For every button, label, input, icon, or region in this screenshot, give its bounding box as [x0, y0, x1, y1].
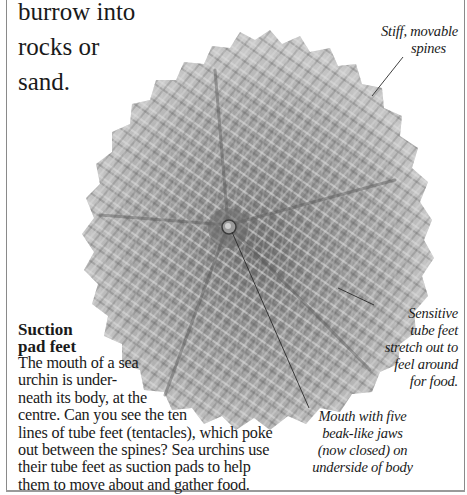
body-line: them to move about and gather food. — [18, 477, 278, 494]
caption-line: underside of body — [300, 459, 425, 476]
book-page: burrow into rocks or sand. Suction pad f… — [0, 0, 467, 495]
caption-line: beak-like jaws — [300, 425, 425, 442]
body-line: lines of tube feet (tentacles), which po… — [18, 425, 278, 442]
page-border-right — [464, 0, 465, 491]
body-line: The mouth of a sea — [18, 355, 278, 372]
caption-line: tube feet — [340, 322, 458, 339]
caption-line: stretch out to — [340, 339, 458, 356]
intro-line: rocks or — [18, 29, 148, 64]
caption-spines: Stiff, movable spines — [340, 23, 458, 57]
caption-line: (now closed) on — [300, 442, 425, 459]
page-border-left — [6, 0, 7, 491]
caption-line: feel around — [340, 356, 458, 373]
body-line: centre. Can you see the ten — [18, 407, 278, 424]
intro-text: burrow into rocks or sand. — [18, 0, 148, 99]
heading-line: pad feet — [18, 338, 138, 355]
intro-line: burrow into — [18, 0, 148, 29]
body-line: their tube feet as suction pads to help — [18, 459, 278, 476]
caption-tube-feet: Sensitive tube feet stretch out to feel … — [340, 305, 458, 390]
heading-line: Suction — [18, 321, 138, 338]
section-body: The mouth of a sea urchin is under- neat… — [18, 355, 278, 494]
caption-line: spines — [340, 40, 458, 57]
intro-line: sand. — [18, 64, 148, 99]
body-line: neath its body, at the — [18, 390, 278, 407]
caption-line: for food. — [340, 373, 458, 390]
body-line: out between the spines? Sea urchins use — [18, 442, 278, 459]
caption-line: Sensitive — [340, 305, 458, 322]
caption-mouth: Mouth with five beak-like jaws (now clos… — [300, 408, 425, 476]
caption-line: Mouth with five — [300, 408, 425, 425]
section-heading: Suction pad feet — [18, 321, 138, 355]
caption-line: Stiff, movable — [340, 23, 458, 40]
body-line: urchin is under- — [18, 372, 278, 389]
